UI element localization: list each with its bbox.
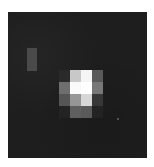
source-pixel [70,94,81,106]
source-pixel [92,106,103,118]
source-pixel [70,106,81,118]
source-pixel [92,82,103,94]
source-pixel [81,70,92,82]
source-pixel [59,70,70,82]
faint-feature [27,48,37,71]
source-pixel [59,106,70,118]
source-pixel [81,106,92,118]
source-pixel [81,82,92,94]
source-pixel [70,82,81,94]
noise-speck [117,118,119,120]
source-pixel [81,94,92,106]
source-pixel [59,82,70,94]
source-pixel [59,94,70,106]
image-frame [8,12,147,158]
source-pixel [92,94,103,106]
source-pixel [70,70,81,82]
source-pixel [92,70,103,82]
